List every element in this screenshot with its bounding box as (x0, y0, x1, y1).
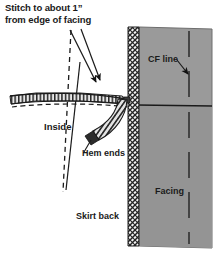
hem-stitch-dashes (12, 104, 128, 107)
panel-divider (137, 105, 212, 106)
leader-arrow-2 (81, 29, 100, 80)
label-skirt-back: Skirt back (76, 211, 119, 222)
label-cf-line: CF line (148, 54, 178, 65)
label-hem-ends: Hem ends (82, 148, 125, 159)
instruction-title-line2: from edge of facing (5, 14, 91, 26)
label-facing: Facing (155, 186, 184, 197)
facing-edge-hatched (128, 27, 139, 246)
sewing-instruction-figure: Stitch to about 1” from edge of facing I… (0, 0, 221, 253)
label-inside: Inside (44, 121, 71, 133)
hem-end-curve (85, 99, 127, 145)
fold-line-dashed (63, 30, 71, 192)
leader-arrow-1 (70, 30, 96, 82)
instruction-title: Stitch to about 1” from edge of facing (5, 2, 91, 25)
instruction-title-line1: Stitch to about 1” (5, 2, 91, 14)
